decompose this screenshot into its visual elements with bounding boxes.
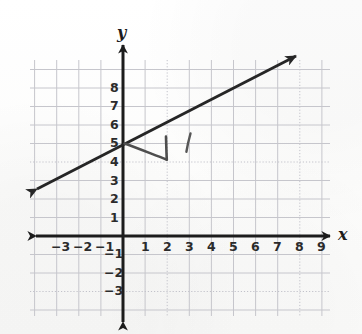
x-tick--2: −2 [73,241,92,254]
y-tick-5: 5 [110,137,119,150]
y-tick--2: −2 [104,267,123,280]
y-tick--3: −3 [104,285,123,298]
grid-vertical [35,60,322,316]
x-tick-9: 9 [317,241,326,254]
y-tick-3: 3 [110,175,119,188]
axes [36,45,330,322]
y-axis-label: y [117,25,126,41]
x-tick-1: 1 [141,241,150,254]
x-tick-2: 2 [163,241,172,254]
plotted-line [37,56,296,189]
x-tick--3: −3 [51,241,70,254]
y-tick-4: 4 [110,156,119,169]
slope-triangle-vertical-leg [166,137,167,160]
y-tick--1: −1 [104,248,123,261]
coordinate-plane-graphic [0,0,362,334]
worksheet-graph-figure: −3 −2 −1 1 2 3 4 5 6 7 8 9 8 7 6 5 4 3 2… [0,0,362,334]
y-tick-6: 6 [110,119,119,132]
x-tick-7: 7 [273,241,282,254]
y-tick-8: 8 [110,82,119,95]
x-tick-4: 4 [207,241,216,254]
y-tick-2: 2 [110,193,119,206]
x-tick-8: 8 [295,241,304,254]
y-tick-1: 1 [110,212,119,225]
tally-stroke-annotation [186,134,190,152]
grid-horizontal [30,70,330,311]
x-tick-6: 6 [251,241,260,254]
x-tick-5: 5 [229,241,238,254]
grid-lines [30,60,330,316]
x-axis-label: x [338,227,348,243]
y-tick-7: 7 [110,100,119,113]
x-tick-3: 3 [185,241,194,254]
